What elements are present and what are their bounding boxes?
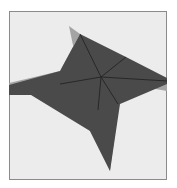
folded-star-diagram — [0, 0, 177, 188]
dark-face — [9, 34, 167, 171]
